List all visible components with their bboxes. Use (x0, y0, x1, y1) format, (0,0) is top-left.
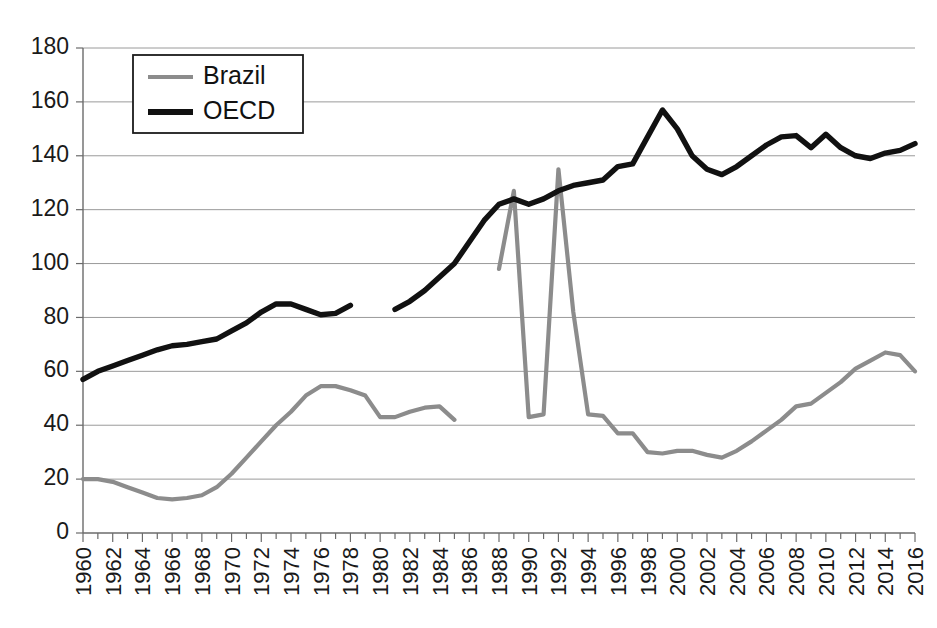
x-axis-tick-label: 1994 (576, 547, 601, 596)
x-axis-tick-label: 1966 (160, 547, 185, 596)
y-axis-tick-label: 20 (43, 464, 69, 490)
y-axis-tick-label: 160 (31, 87, 69, 113)
x-axis-tick-label: 2000 (665, 547, 690, 596)
x-axis-tick-label: 2014 (873, 547, 898, 596)
x-axis-tick-label: 1992 (546, 547, 571, 596)
x-axis-tick-label: 1976 (309, 547, 334, 596)
x-axis-tick-label: 1996 (606, 547, 631, 596)
x-axis-tick-label: 1968 (190, 547, 215, 596)
y-axis-tick-label: 140 (31, 141, 69, 167)
y-axis-tick-label: 60 (43, 356, 69, 382)
data-series-layer (83, 110, 915, 499)
legend-label-oecd: OECD (203, 96, 275, 124)
series-line-oecd (83, 304, 350, 379)
x-axis-tick-label: 2016 (903, 547, 928, 596)
legend-label-brazil: Brazil (203, 61, 266, 89)
x-axis-tick-label: 2002 (695, 547, 720, 596)
y-axis-tick-label: 40 (43, 410, 69, 436)
x-axis-tick-label: 1986 (457, 547, 482, 596)
x-axis-tick-label: 2008 (784, 547, 809, 596)
y-axis-tick-label: 80 (43, 303, 69, 329)
x-axis-tick-label: 2006 (754, 547, 779, 596)
x-axis-tick-label: 1970 (220, 547, 245, 596)
chart-container: 020406080100120140160180 196019621964196… (0, 0, 937, 628)
series-line-brazil (499, 169, 915, 457)
y-axis-tick-label: 180 (31, 33, 69, 59)
x-axis-tick-label: 1972 (249, 547, 274, 596)
x-axis-tick-label: 1982 (398, 547, 423, 596)
x-axis-tick-label: 2012 (844, 547, 869, 596)
x-axis-tick-label: 1988 (487, 547, 512, 596)
x-axis-tick-label: 1964 (130, 547, 155, 596)
x-axis-tick-label: 1978 (338, 547, 363, 596)
x-axis-tick-label: 1990 (517, 547, 542, 596)
x-axis-tick-label: 1960 (71, 547, 96, 596)
x-axis-tick-label: 2010 (814, 547, 839, 596)
x-axis-tick-label: 1974 (279, 547, 304, 596)
line-chart: 020406080100120140160180 196019621964196… (0, 0, 937, 628)
x-axis-tick-label: 1962 (101, 547, 126, 596)
y-axis-labels: 020406080100120140160180 (31, 33, 69, 544)
x-axis-ticks (83, 533, 915, 542)
x-axis-tick-label: 2004 (725, 547, 750, 596)
x-axis-tick-label: 1980 (368, 547, 393, 596)
y-axis-tick-label: 120 (31, 195, 69, 221)
x-axis-tick-label: 1998 (636, 547, 661, 596)
series-line-brazil (83, 386, 454, 499)
chart-legend: BrazilOECD (133, 55, 303, 133)
y-axis-tick-label: 100 (31, 249, 69, 275)
x-axis-tick-label: 1984 (428, 547, 453, 596)
y-axis-tick-label: 0 (56, 518, 69, 544)
x-axis-labels: 1960196219641966196819701972197419761978… (71, 547, 928, 596)
